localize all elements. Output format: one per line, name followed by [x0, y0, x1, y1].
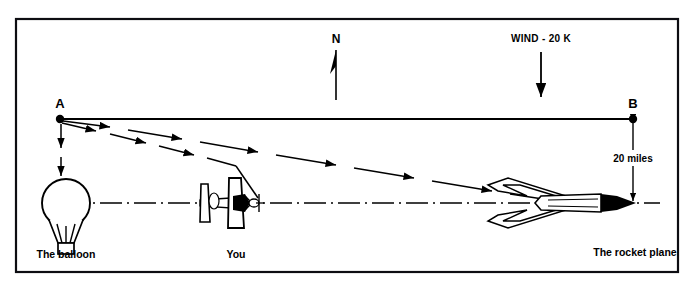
- north-label: N: [332, 32, 341, 46]
- your-aircraft-icon: [200, 178, 264, 228]
- navigation-diagram: N WIND - 20 K A B: [0, 0, 693, 287]
- dimension-label: 20 miles: [613, 153, 653, 164]
- diagram-frame: [16, 19, 678, 272]
- sight-line-a-to-rocket-plane: [63, 121, 556, 201]
- north-arrow-icon: [330, 50, 336, 100]
- diagram-root: N WIND - 20 K A B: [0, 0, 693, 287]
- balloon-icon: [42, 179, 90, 254]
- your-aircraft-caption: You: [226, 248, 245, 260]
- rocket-plane-caption: The rocket plane: [593, 246, 677, 258]
- point-b-label: B: [628, 96, 637, 111]
- point-a-marker: [56, 115, 64, 123]
- balloon-caption: The balloon: [37, 248, 96, 260]
- point-a-label: A: [55, 96, 65, 111]
- wind-label: WIND - 20 K: [511, 33, 571, 44]
- point-b-marker: [629, 115, 637, 123]
